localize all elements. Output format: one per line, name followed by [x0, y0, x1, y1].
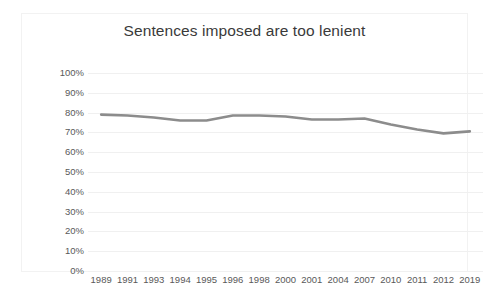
- x-tick-label: 2001: [301, 275, 322, 285]
- x-tick-label: 2019: [459, 275, 480, 285]
- x-tick-label: 2007: [354, 275, 375, 285]
- series-line-sentences-too-lenient: [101, 115, 470, 134]
- y-tick-label: 10%: [65, 246, 84, 256]
- x-tick-label: 2004: [328, 275, 349, 285]
- x-tick-label: 2011: [407, 275, 427, 285]
- chart-title: Sentences imposed are too lenient: [22, 22, 467, 40]
- plot-area: [88, 73, 483, 271]
- x-tick-label: 2012: [433, 275, 454, 285]
- x-tick-label: 1996: [222, 275, 243, 285]
- y-tick-label: 50%: [65, 167, 84, 177]
- y-tick-label: 40%: [65, 187, 84, 197]
- y-tick-label: 0%: [70, 266, 84, 276]
- x-tick-label: 1989: [91, 275, 112, 285]
- x-tick-label: 1995: [196, 275, 217, 285]
- y-axis: 100%90%80%70%60%50%40%30%20%10%0%: [34, 73, 84, 271]
- x-tick-label: 1994: [170, 275, 191, 285]
- x-tick-label: 1998: [249, 275, 270, 285]
- x-tick-label: 2010: [380, 275, 401, 285]
- y-tick-label: 30%: [65, 207, 84, 217]
- x-axis: 1989199119931994199519961998200020012004…: [88, 275, 483, 289]
- x-tick-label: 1993: [143, 275, 164, 285]
- y-tick-label: 100%: [60, 68, 84, 78]
- y-tick-label: 80%: [65, 108, 84, 118]
- y-tick-label: 90%: [65, 88, 84, 98]
- chart-frame: Sentences imposed are too lenient 100%90…: [21, 13, 468, 272]
- figure-canvas: Sentences imposed are too lenient 100%90…: [0, 0, 485, 293]
- gridline: [88, 271, 483, 272]
- y-tick-label: 20%: [65, 227, 84, 237]
- x-tick-label: 2000: [275, 275, 296, 285]
- y-tick-label: 70%: [65, 128, 84, 138]
- line-series-chart: [88, 73, 483, 271]
- x-tick-label: 1991: [117, 275, 138, 285]
- y-tick-label: 60%: [65, 147, 84, 157]
